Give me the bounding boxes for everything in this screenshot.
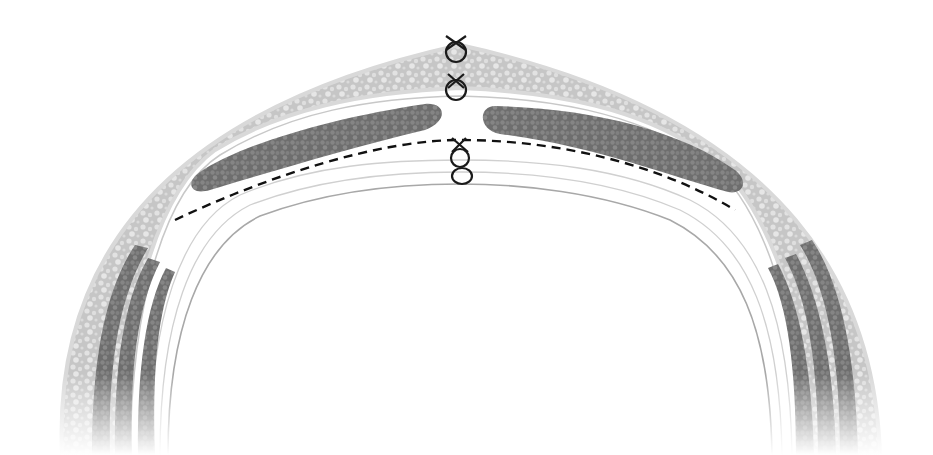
bottom-fade [0, 0, 933, 455]
abdominal-wall-diagram [0, 0, 933, 455]
